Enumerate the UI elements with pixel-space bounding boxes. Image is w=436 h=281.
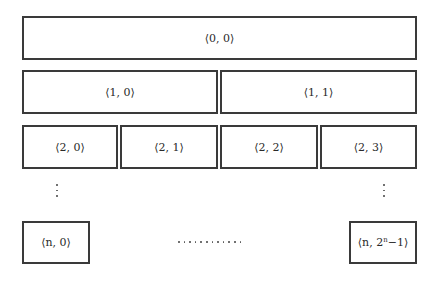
node-label: ⟨1, 0⟩ — [105, 86, 135, 99]
node-label: ⟨2, 2⟩ — [254, 141, 284, 154]
node-label: ⟨n, 2n−1⟩ — [358, 236, 408, 249]
node-label: ⟨2, 3⟩ — [354, 141, 384, 154]
node-2-3: ⟨2, 3⟩ — [320, 125, 417, 169]
node-1-0: ⟨1, 0⟩ — [22, 70, 218, 114]
vertical-ellipsis-right — [382, 184, 386, 197]
horizontal-ellipsis — [178, 241, 241, 243]
node-2-1: ⟨2, 1⟩ — [120, 125, 218, 169]
node-label: ⟨2, 1⟩ — [154, 141, 184, 154]
node-n-0: ⟨n, 0⟩ — [22, 221, 90, 264]
node-label: ⟨n, 0⟩ — [41, 236, 71, 249]
vertical-ellipsis-left — [55, 184, 59, 197]
node-1-1: ⟨1, 1⟩ — [220, 70, 417, 114]
node-label: ⟨0, 0⟩ — [205, 32, 235, 45]
node-label: ⟨1, 1⟩ — [304, 86, 334, 99]
node-2-2: ⟨2, 2⟩ — [220, 125, 318, 169]
node-2-0: ⟨2, 0⟩ — [22, 125, 118, 169]
node-0-0: ⟨0, 0⟩ — [22, 16, 417, 60]
node-label: ⟨2, 0⟩ — [55, 141, 85, 154]
node-n-last: ⟨n, 2n−1⟩ — [349, 221, 417, 264]
